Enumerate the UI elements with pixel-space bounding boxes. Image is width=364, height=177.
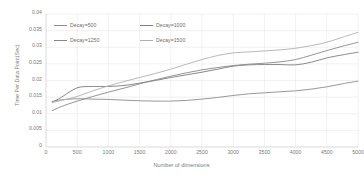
legend-swatch-icon — [54, 40, 67, 41]
y-axis-tick-label: 0.03 — [32, 42, 42, 48]
legend-label: Decay=500 — [70, 22, 96, 28]
x-axis-tick-label: 500 — [73, 149, 82, 155]
legend-item[interactable]: Decay=1250 — [54, 36, 99, 44]
legend-swatch-icon — [140, 25, 153, 26]
legend-item[interactable]: Decay=1500 — [140, 36, 185, 44]
x-axis-tick-label: 3500 — [259, 149, 271, 155]
x-axis-tick-label: 5000 — [352, 149, 364, 155]
x-axis-tick-label: 1000 — [103, 149, 115, 155]
x-axis-tick-labels: 0500100015002000250030003500400045005000 — [46, 149, 358, 159]
y-axis-title-label: Time Per Data Point(Sec) — [14, 44, 20, 105]
y-axis-tick-label: 0.015 — [29, 92, 42, 98]
x-axis-tick-label: 1500 — [134, 149, 146, 155]
x-axis-tick-label: 0 — [45, 149, 48, 155]
chart-legend: Decay=500Decay=1000Decay=1250Decay=1500 — [54, 21, 204, 49]
x-axis-title: Number of dimensions — [0, 162, 363, 168]
y-axis-tick-label: 0.04 — [32, 9, 42, 15]
legend-swatch-icon — [54, 25, 67, 26]
x-axis-tick-label: 4000 — [290, 149, 302, 155]
legend-label: Decay=1000 — [156, 22, 185, 28]
y-axis-tick-labels: 0.040.0350.030.0250.020.0150.010.0050 — [22, 12, 44, 147]
y-axis-tick-label: 0.02 — [32, 76, 42, 82]
legend-item[interactable]: Decay=1000 — [140, 21, 185, 29]
x-axis-tick-label: 2000 — [165, 149, 177, 155]
legend-label: Decay=1250 — [70, 37, 99, 43]
legend-item[interactable]: Decay=500 — [54, 21, 96, 29]
y-axis-tick-label: 0 — [39, 142, 42, 148]
x-axis-title-label: Number of dimensions — [154, 162, 210, 168]
x-axis-tick-label: 2500 — [196, 149, 208, 155]
legend-label: Decay=1500 — [156, 37, 185, 43]
y-axis-tick-label: 0.035 — [29, 26, 42, 32]
series-line-2 — [52, 42, 358, 111]
x-axis-tick-label: 3000 — [227, 149, 239, 155]
legend-swatch-icon — [140, 40, 153, 41]
y-axis-tick-label: 0.005 — [29, 125, 42, 131]
series-line-0 — [52, 81, 358, 101]
x-axis-tick-label: 4500 — [321, 149, 333, 155]
y-axis-tick-label: 0.01 — [32, 109, 42, 115]
y-axis-tick-label: 0.025 — [29, 59, 42, 65]
